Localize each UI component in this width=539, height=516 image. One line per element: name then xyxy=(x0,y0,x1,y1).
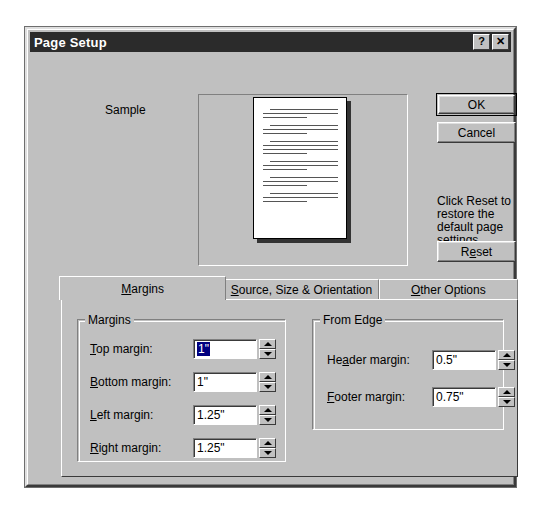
arrow-down-icon xyxy=(503,400,511,404)
arrow-down-icon xyxy=(264,352,272,356)
tab-other-label: Other Options xyxy=(411,283,486,297)
field-footer-margin-label: Footer margin: xyxy=(327,390,432,404)
bottom-margin-input[interactable]: 1" xyxy=(193,372,257,392)
arrow-up-icon xyxy=(264,342,272,346)
cancel-button[interactable]: Cancel xyxy=(437,122,516,143)
field-top-margin: Top margin: 1" xyxy=(90,338,276,359)
tab-margins[interactable]: Margins xyxy=(59,276,226,300)
sample-preview-frame xyxy=(198,94,408,266)
right-margin-stepper-down[interactable] xyxy=(259,448,276,458)
preview-text-line xyxy=(263,181,338,182)
reset-help-text: Click Reset to restore the default page … xyxy=(437,195,523,247)
footer-margin-input[interactable]: 0.75" xyxy=(432,387,496,407)
arrow-up-icon xyxy=(503,390,511,394)
field-left-margin-label: Left margin: xyxy=(90,408,193,422)
footer-margin-stepper-down[interactable] xyxy=(498,397,515,407)
tab-other-options[interactable]: Other Options xyxy=(379,279,518,300)
preview-text-line xyxy=(263,169,307,170)
top-margin-stepper[interactable] xyxy=(259,339,276,359)
tab-source-size-orientation[interactable]: Source, Size & Orientation xyxy=(224,279,378,300)
left-margin-stepper-up[interactable] xyxy=(259,405,276,415)
header-margin-stepper-down[interactable] xyxy=(498,360,515,370)
field-header-margin-label: Header margin: xyxy=(327,353,432,367)
arrow-up-icon xyxy=(503,353,511,357)
arrow-down-icon xyxy=(264,451,272,455)
preview-text-line xyxy=(263,113,338,114)
tab-margins-label: Margins xyxy=(121,282,164,296)
preview-text-line xyxy=(263,165,338,166)
group-margins-legend: Margins xyxy=(85,313,134,327)
field-right-margin-label: Right margin: xyxy=(90,441,193,455)
screen-background: Page Setup ? ✕ Sample OK Cancel Click Re… xyxy=(0,0,539,516)
preview-text-line xyxy=(263,117,307,118)
arrow-up-icon xyxy=(264,441,272,445)
bottom-margin-value: 1" xyxy=(197,375,208,389)
preview-text-line xyxy=(263,149,338,150)
field-top-margin-label: Top margin: xyxy=(90,342,193,356)
preview-text-line xyxy=(263,185,307,186)
left-margin-input[interactable]: 1.25" xyxy=(193,405,257,425)
group-from-edge: From Edge Header margin: 0.5" Footer mar… xyxy=(312,319,504,430)
left-margin-stepper-down[interactable] xyxy=(259,415,276,425)
footer-margin-stepper[interactable] xyxy=(498,387,515,407)
left-margin-value: 1.25" xyxy=(197,408,225,422)
titlebar[interactable]: Page Setup ? ✕ xyxy=(30,32,511,52)
bottom-margin-stepper[interactable] xyxy=(259,372,276,392)
field-footer-margin: Footer margin: 0.75" xyxy=(327,386,515,407)
header-margin-input[interactable]: 0.5" xyxy=(432,350,496,370)
tab-source-label: Source, Size & Orientation xyxy=(231,283,372,297)
tabstrip: Margins Source, Size & Orientation Other… xyxy=(61,276,518,300)
page-setup-dialog: Page Setup ? ✕ Sample OK Cancel Click Re… xyxy=(25,27,516,487)
field-header-margin: Header margin: 0.5" xyxy=(327,349,515,370)
left-margin-stepper[interactable] xyxy=(259,405,276,425)
arrow-down-icon xyxy=(264,385,272,389)
right-margin-stepper[interactable] xyxy=(259,438,276,458)
right-margin-input[interactable]: 1.25" xyxy=(193,438,257,458)
right-margin-value: 1.25" xyxy=(197,441,225,455)
header-margin-stepper[interactable] xyxy=(498,350,515,370)
preview-text-line xyxy=(263,145,338,146)
header-margin-stepper-up[interactable] xyxy=(498,350,515,360)
arrow-up-icon xyxy=(264,375,272,379)
top-margin-stepper-up[interactable] xyxy=(259,339,276,349)
right-margin-stepper-up[interactable] xyxy=(259,438,276,448)
top-margin-value: 1" xyxy=(197,342,210,356)
sample-label: Sample xyxy=(105,103,146,117)
window-title: Page Setup xyxy=(30,35,473,50)
preview-text-line xyxy=(270,141,338,142)
preview-text-line xyxy=(270,161,338,162)
field-left-margin: Left margin: 1.25" xyxy=(90,404,276,425)
footer-margin-stepper-up[interactable] xyxy=(498,387,515,397)
page-preview-lines xyxy=(263,109,338,205)
header-margin-value: 0.5" xyxy=(436,353,457,367)
bottom-margin-stepper-up[interactable] xyxy=(259,372,276,382)
footer-margin-value: 0.75" xyxy=(436,390,464,404)
group-margins: Margins Top margin: 1" Bottom margin: 1" xyxy=(77,319,286,462)
preview-text-line xyxy=(270,109,338,110)
preview-text-line xyxy=(263,153,307,154)
preview-text-line xyxy=(263,197,338,198)
group-from-edge-legend: From Edge xyxy=(320,313,385,327)
page-preview xyxy=(253,97,347,239)
top-margin-input[interactable]: 1" xyxy=(193,339,257,359)
arrow-down-icon xyxy=(503,363,511,367)
preview-text-line xyxy=(270,177,338,178)
close-icon[interactable]: ✕ xyxy=(492,34,509,50)
top-margin-stepper-down[interactable] xyxy=(259,349,276,359)
reset-button-label: Reset xyxy=(461,245,492,259)
tab-panel-margins: Margins Top margin: 1" Bottom margin: 1" xyxy=(61,299,518,477)
arrow-down-icon xyxy=(264,418,272,422)
preview-text-line xyxy=(263,129,338,130)
bottom-margin-stepper-down[interactable] xyxy=(259,382,276,392)
preview-text-line xyxy=(270,125,338,126)
preview-text-line xyxy=(263,201,307,202)
arrow-up-icon xyxy=(264,408,272,412)
field-bottom-margin: Bottom margin: 1" xyxy=(90,371,276,392)
reset-button[interactable]: Reset xyxy=(437,241,516,262)
ok-button[interactable]: OK xyxy=(438,95,515,114)
preview-text-line xyxy=(263,133,307,134)
help-icon[interactable]: ? xyxy=(473,34,490,50)
preview-text-line xyxy=(270,193,338,194)
ok-button-default-frame: OK xyxy=(436,93,517,116)
field-bottom-margin-label: Bottom margin: xyxy=(90,375,193,389)
